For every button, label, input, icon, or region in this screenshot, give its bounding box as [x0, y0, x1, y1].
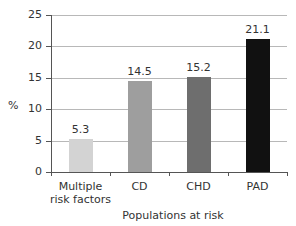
- y-tick-mark: [46, 109, 51, 110]
- y-axis-title: %: [8, 99, 18, 112]
- bar: [246, 39, 270, 172]
- y-tick-mark: [46, 15, 51, 16]
- x-tick-mark: [228, 172, 229, 176]
- y-axis: [51, 15, 52, 173]
- y-tick-label: 0: [22, 166, 42, 178]
- bar: [187, 77, 211, 172]
- bar-value-label: 15.2: [179, 62, 219, 74]
- y-tick-label: 20: [22, 40, 42, 52]
- bar: [128, 81, 152, 172]
- x-axis-title: Populations at risk: [0, 209, 296, 222]
- y-tick-label: 25: [22, 9, 42, 21]
- x-tick-mark: [110, 172, 111, 176]
- y-tick-label: 5: [22, 135, 42, 147]
- x-tick-mark: [51, 172, 52, 176]
- bar-value-label: 14.5: [120, 66, 160, 78]
- y-tick-mark: [46, 78, 51, 79]
- y-tick-label: 10: [22, 103, 42, 115]
- y-tick-label: 15: [22, 72, 42, 84]
- x-tick-mark: [287, 172, 288, 176]
- x-category-label: PAD: [223, 180, 293, 193]
- x-tick-mark: [169, 172, 170, 176]
- gridline: [51, 15, 287, 16]
- y-tick-mark: [46, 46, 51, 47]
- y-tick-mark: [46, 141, 51, 142]
- bar-value-label: 21.1: [238, 24, 278, 36]
- bar-value-label: 5.3: [61, 124, 101, 136]
- bar: [69, 139, 93, 172]
